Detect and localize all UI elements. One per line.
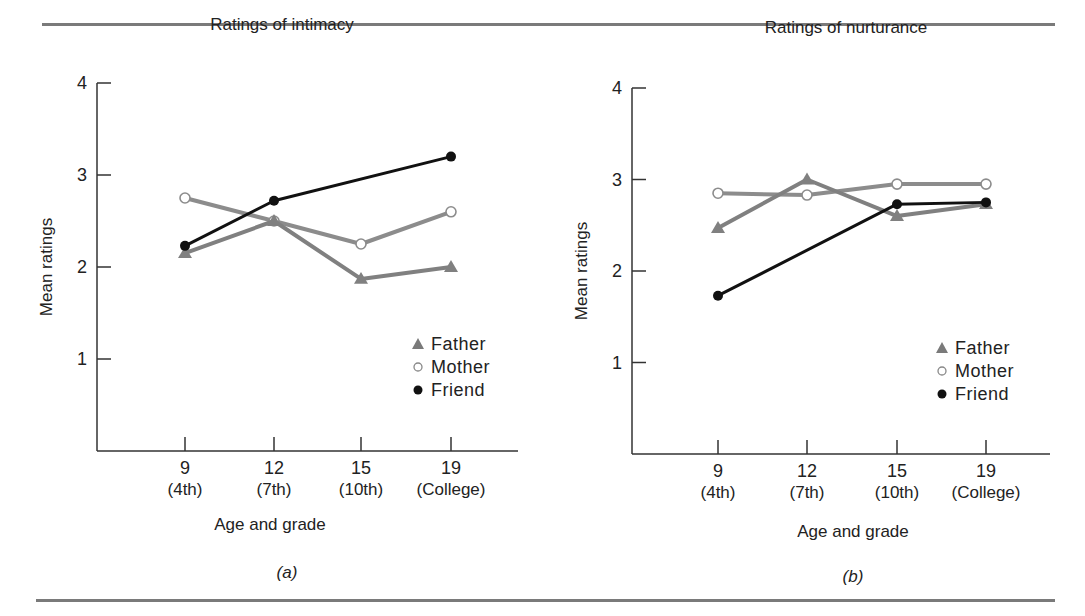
panel-label: (b) xyxy=(843,567,864,586)
legend-triangle-icon xyxy=(412,338,424,349)
father-line xyxy=(185,221,451,279)
x-tick-age-label: 9 xyxy=(713,461,723,481)
open-circle-marker xyxy=(892,179,902,189)
x-tick-grade-label: (10th) xyxy=(339,480,383,499)
legend-label-father: Father xyxy=(955,338,1010,358)
series-friend xyxy=(713,197,991,300)
y-tick-label: 2 xyxy=(612,261,622,281)
x-tick-age-label: 19 xyxy=(441,458,461,478)
x-tick-grade-label: (College) xyxy=(417,480,486,499)
x-tick-age-label: 19 xyxy=(976,461,996,481)
chart-title: Ratings of nurturance xyxy=(765,18,928,37)
x-tick-age-label: 12 xyxy=(264,458,284,478)
legend-label-mother: Mother xyxy=(955,361,1014,381)
friend-line xyxy=(718,202,986,295)
legend-triangle-icon xyxy=(936,342,948,353)
x-axis-title: Age and grade xyxy=(797,522,909,541)
y-tick-label: 4 xyxy=(612,78,622,98)
chart-panel-b: Ratings of nurturance12349(4th)12(7th)15… xyxy=(572,18,1050,586)
open-circle-marker xyxy=(802,190,812,200)
filled-circle-marker xyxy=(180,241,190,251)
x-tick-grade-label: (College) xyxy=(952,483,1021,502)
series-friend xyxy=(180,152,456,251)
chart-title: Ratings of intimacy xyxy=(210,15,354,34)
x-tick-age-label: 15 xyxy=(887,461,907,481)
filled-circle-marker xyxy=(981,197,991,207)
y-tick-label: 1 xyxy=(612,353,622,373)
open-circle-marker xyxy=(356,239,366,249)
open-circle-marker xyxy=(981,179,991,189)
filled-circle-marker xyxy=(269,196,279,206)
y-tick-label: 3 xyxy=(612,170,622,190)
figure: Ratings of intimacy12349(4th)12(7th)15(1… xyxy=(0,0,1085,616)
legend-label-father: Father xyxy=(431,334,486,354)
open-circle-marker xyxy=(713,188,723,198)
x-tick-age-label: 12 xyxy=(797,461,817,481)
legend-open-circle-icon xyxy=(414,363,422,371)
triangle-marker xyxy=(800,173,814,185)
chart-panel-a: Ratings of intimacy12349(4th)12(7th)15(1… xyxy=(37,15,518,582)
open-circle-marker xyxy=(446,207,456,217)
y-tick-label: 4 xyxy=(77,73,87,93)
y-axis-title: Mean ratings xyxy=(572,222,591,320)
panel-label: (a) xyxy=(277,563,298,582)
filled-circle-marker xyxy=(713,291,723,301)
y-axis-title: Mean ratings xyxy=(37,218,56,316)
filled-circle-marker xyxy=(892,199,902,209)
x-tick-grade-label: (7th) xyxy=(257,480,292,499)
x-axis-title: Age and grade xyxy=(214,515,326,534)
filled-circle-marker xyxy=(446,152,456,162)
x-tick-grade-label: (7th) xyxy=(790,483,825,502)
open-circle-marker xyxy=(180,193,190,203)
x-tick-age-label: 9 xyxy=(180,458,190,478)
y-tick-label: 1 xyxy=(77,349,87,369)
y-tick-label: 2 xyxy=(77,257,87,277)
legend-label-friend: Friend xyxy=(431,380,485,400)
legend-open-circle-icon xyxy=(938,367,946,375)
legend-label-friend: Friend xyxy=(955,384,1009,404)
legend: FatherMotherFriend xyxy=(412,334,490,400)
y-tick-label: 3 xyxy=(77,165,87,185)
x-tick-grade-label: (4th) xyxy=(701,483,736,502)
x-tick-grade-label: (10th) xyxy=(875,483,919,502)
mother-line xyxy=(718,184,986,195)
legend: FatherMotherFriend xyxy=(936,338,1014,404)
legend-filled-circle-icon xyxy=(414,386,423,395)
legend-label-mother: Mother xyxy=(431,357,490,377)
legend-filled-circle-icon xyxy=(938,390,947,399)
x-tick-age-label: 15 xyxy=(351,458,371,478)
x-tick-grade-label: (4th) xyxy=(168,480,203,499)
